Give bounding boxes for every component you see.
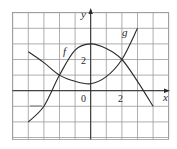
y-axis-label: y [80, 8, 86, 20]
curve-g-label: g [122, 26, 128, 38]
origin-label: 0 [81, 93, 86, 104]
x-tick-label-2: 2 [118, 93, 123, 104]
x-axis-label: x [162, 91, 168, 103]
y-axis-arrow-icon [89, 8, 93, 14]
curve-f-label: f [63, 45, 68, 57]
y-tick-label-2: 2 [81, 55, 86, 66]
function-graph: y x 0 2 2 f g [0, 0, 177, 149]
